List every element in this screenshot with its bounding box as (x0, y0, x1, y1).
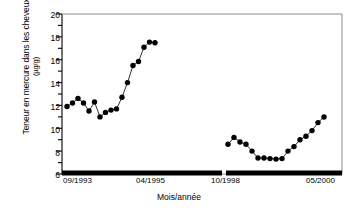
data-point (70, 100, 75, 105)
data-point (141, 45, 146, 50)
data-point (321, 114, 326, 119)
series-2-group (225, 114, 326, 162)
axes-frame (62, 14, 342, 174)
data-point (291, 144, 296, 149)
data-point (267, 156, 272, 161)
data-point (237, 139, 242, 144)
data-point (225, 142, 230, 147)
data-point (108, 107, 113, 112)
data-point (130, 63, 135, 68)
plot-canvas (0, 0, 358, 216)
data-point (92, 99, 97, 104)
period-bar-2 (226, 171, 342, 176)
series-1-markers (64, 39, 157, 119)
data-point (119, 95, 124, 100)
data-point (125, 80, 130, 85)
data-point (309, 128, 314, 133)
data-point (303, 134, 308, 139)
data-point (103, 110, 108, 115)
series-1-line (67, 42, 155, 117)
data-point (297, 137, 302, 142)
data-point (279, 156, 284, 161)
data-point (97, 114, 102, 119)
series-2-markers (225, 114, 326, 162)
period-bars (62, 171, 342, 176)
data-point (273, 156, 278, 161)
y-axis-ticks (56, 14, 62, 174)
data-point (243, 142, 248, 147)
data-point (285, 148, 290, 153)
period-bar-1 (62, 171, 222, 176)
data-point (64, 104, 69, 109)
data-point (261, 155, 266, 160)
series-2-line (228, 117, 324, 159)
data-point (255, 155, 260, 160)
data-point (75, 96, 80, 101)
mercury-hair-line-chart: Teneur en mercure dans les cheveux (µg/g… (0, 0, 358, 216)
data-point (86, 108, 91, 113)
data-point (231, 135, 236, 140)
data-point (315, 120, 320, 125)
data-point (81, 100, 86, 105)
data-point (152, 40, 157, 45)
data-point (249, 148, 254, 153)
series-1-group (64, 39, 157, 119)
data-point (114, 106, 119, 111)
data-point (147, 39, 152, 44)
data-point (136, 59, 141, 64)
